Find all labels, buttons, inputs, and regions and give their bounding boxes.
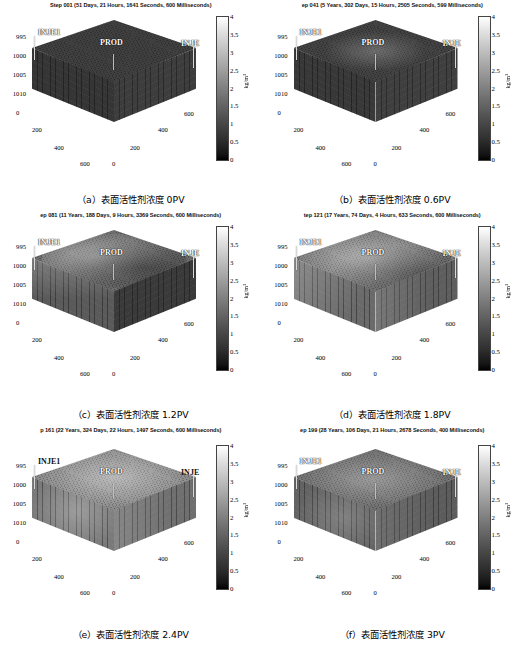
colorbar-tick-3-5: 3.5 [492, 459, 501, 466]
well-label-inje1: INJE1 [300, 457, 322, 466]
colorbar-tick-4: 4 [230, 442, 233, 449]
y-tick-0: 0 [112, 370, 115, 377]
y-tick-600: 600 [184, 539, 194, 546]
colorbar-tick-0-5: 0.5 [230, 138, 239, 145]
colorbar-tick-4: 4 [492, 223, 495, 230]
well-marker-prod [375, 264, 376, 280]
figure-panel-grid: Step 001 (51 Days, 21 Hours, 1641 Second… [0, 0, 523, 653]
well-label-inje: INJE [181, 468, 199, 477]
panel-c: ep 081 (11 Years, 188 Days, 9 Hours, 336… [0, 210, 262, 425]
z-tick-1000: 1000 [264, 52, 288, 59]
z-tick-1010: 1010 [264, 90, 288, 97]
colorbar-tick-2: 2 [230, 294, 233, 301]
panel-d-caption: （d）表面活性剂浓度 1.8PV [262, 407, 523, 421]
well-marker-inje1 [296, 36, 297, 60]
colorbar-tick-3: 3 [230, 477, 233, 484]
colorbar-tick-3: 3 [492, 477, 495, 484]
x-tick-0: 0 [278, 319, 281, 326]
x-tick-200: 200 [32, 126, 42, 133]
colorbar-tick-0: 0 [492, 366, 495, 373]
well-label-inje: INJE [443, 249, 461, 258]
panel-b-axes: INJE1 PROD INJE 995 1000 1005 1010 0 200… [274, 14, 474, 174]
colorbar-tick-1-5: 1.5 [492, 102, 501, 109]
z-tick-1005: 1005 [264, 71, 288, 78]
well-label-inje1: INJE1 [300, 28, 322, 37]
x-tick-600: 600 [342, 160, 352, 167]
well-label-inje1: INJE1 [300, 238, 322, 247]
colorbar-unit-label: kg/m³ [242, 74, 249, 89]
well-marker-inje1 [34, 246, 35, 270]
colorbar-tick-1: 1 [492, 120, 495, 127]
x-tick-600: 600 [80, 589, 90, 596]
x-tick-0: 0 [278, 538, 281, 545]
y-tick-200: 200 [130, 354, 140, 361]
panel-f-axes: INJE1 PROD INJE 995 1000 1005 1010 0 200… [274, 443, 474, 603]
colorbar-tick-3: 3 [230, 258, 233, 265]
z-tick-995: 995 [266, 462, 288, 469]
x-tick-400: 400 [316, 573, 326, 580]
colorbar-tick-0: 0 [230, 585, 233, 592]
x-tick-400: 400 [316, 144, 326, 151]
z-tick-1000: 1000 [264, 262, 288, 269]
panel-b-caption: （b）表面活性剂浓度 0.6PV [262, 192, 523, 206]
panel-d-axes: INJE1 PROD INJE 995 1000 1005 1010 0 200… [274, 224, 474, 384]
colorbar-gradient [478, 226, 491, 371]
well-marker-inje [455, 475, 456, 497]
colorbar-tick-2-5: 2.5 [230, 66, 239, 73]
well-marker-inje1 [296, 465, 297, 489]
x-tick-200: 200 [294, 336, 304, 343]
z-tick-995: 995 [4, 33, 26, 40]
well-label-inje: INJE [443, 468, 461, 477]
z-tick-1010: 1010 [2, 90, 26, 97]
colorbar-tick-0-5: 0.5 [230, 567, 239, 574]
x-tick-600: 600 [342, 589, 352, 596]
y-tick-200: 200 [392, 354, 402, 361]
panel-b-title: ep 041 (5 Years, 302 Days, 15 Hours, 250… [262, 2, 523, 8]
z-tick-1010: 1010 [264, 300, 288, 307]
colorbar-tick-1: 1 [492, 549, 495, 556]
panel-e-caption: （e）表面活性剂浓度 2.4PV [0, 627, 262, 641]
well-marker-inje [455, 46, 456, 68]
colorbar-gradient [478, 16, 491, 161]
well-label-inje: INJE [181, 249, 199, 258]
z-tick-1005: 1005 [2, 500, 26, 507]
well-label-prod: PROD [100, 38, 123, 47]
colorbar-tick-1: 1 [230, 120, 233, 127]
colorbar-gradient [478, 445, 491, 590]
z-tick-1010: 1010 [2, 519, 26, 526]
panel-f-caption: （f）表面活性剂浓度 3PV [262, 627, 523, 641]
x-tick-600: 600 [342, 370, 352, 377]
colorbar-unit-label: kg/m³ [504, 284, 511, 299]
well-marker-inje1 [34, 36, 35, 60]
well-label-inje1: INJE1 [38, 457, 60, 466]
y-tick-400: 400 [158, 336, 168, 343]
panel-c-title: ep 081 (11 Years, 188 Days, 9 Hours, 336… [0, 212, 262, 218]
y-tick-0: 0 [112, 160, 115, 167]
y-tick-0: 0 [374, 160, 377, 167]
y-tick-0: 0 [374, 370, 377, 377]
colorbar-tick-2-5: 2.5 [492, 276, 501, 283]
well-label-prod: PROD [362, 467, 385, 476]
well-marker-prod [375, 54, 376, 70]
z-tick-995: 995 [266, 243, 288, 250]
x-tick-400: 400 [316, 354, 326, 361]
well-marker-inje [193, 475, 194, 497]
well-marker-inje1 [296, 246, 297, 270]
panel-a-title: Step 001 (51 Days, 21 Hours, 1641 Second… [0, 2, 262, 8]
panel-f-title: ep 199 (28 Years, 106 Days, 21 Hours, 26… [262, 427, 523, 433]
panel-e-title: p 161 (22 Years, 324 Days, 22 Hours, 149… [0, 427, 262, 433]
panel-e: p 161 (22 Years, 324 Days, 22 Hours, 149… [0, 425, 262, 653]
colorbar-tick-2-5: 2.5 [492, 495, 501, 502]
x-tick-0: 0 [16, 109, 19, 116]
colorbar-tick-0: 0 [230, 366, 233, 373]
z-tick-1000: 1000 [2, 481, 26, 488]
colorbar-tick-2: 2 [492, 294, 495, 301]
colorbar-tick-2: 2 [492, 84, 495, 91]
y-tick-400: 400 [420, 336, 430, 343]
x-tick-0: 0 [16, 319, 19, 326]
colorbar-tick-2: 2 [230, 84, 233, 91]
colorbar-tick-1: 1 [230, 330, 233, 337]
y-tick-600: 600 [446, 320, 456, 327]
panel-a: Step 001 (51 Days, 21 Hours, 1641 Second… [0, 0, 262, 210]
colorbar-tick-4: 4 [492, 442, 495, 449]
